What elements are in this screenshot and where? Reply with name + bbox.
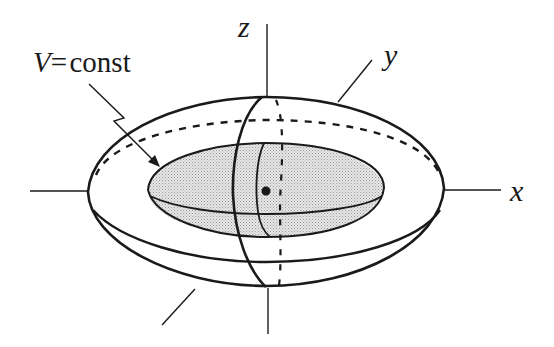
z-axis-label: z <box>238 12 250 42</box>
const-text: const <box>70 46 131 78</box>
label-leader-arrow <box>89 84 160 167</box>
ellipsoid-equipotential-diagram: V= const z y x <box>0 0 554 347</box>
equals-sign: = <box>51 46 67 78</box>
x-axis-label: x <box>510 176 523 206</box>
v-const-label: V= const <box>33 48 131 77</box>
y-axis-label: y <box>384 40 397 70</box>
center-mass-point <box>262 187 271 196</box>
v-symbol: V <box>33 46 51 78</box>
